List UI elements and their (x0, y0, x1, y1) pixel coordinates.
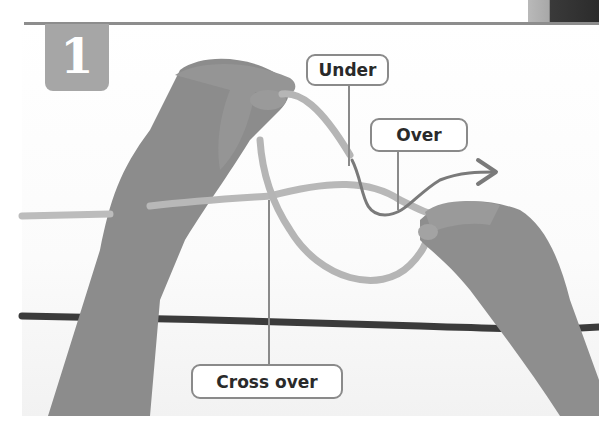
step-number-badge: 1 (45, 24, 109, 91)
over-leader-line (397, 152, 399, 210)
left-arm (48, 59, 289, 416)
light-rope-top (282, 94, 350, 155)
right-thumb (418, 224, 438, 240)
step-number: 1 (60, 32, 93, 80)
label-cross-over: Cross over (191, 364, 343, 399)
cross-over-leader-line (268, 200, 270, 365)
label-over: Over (370, 118, 468, 152)
label-under: Under (306, 54, 389, 86)
right-arm (420, 201, 599, 416)
light-rope-left (22, 214, 110, 216)
under-leader-line (348, 86, 350, 166)
